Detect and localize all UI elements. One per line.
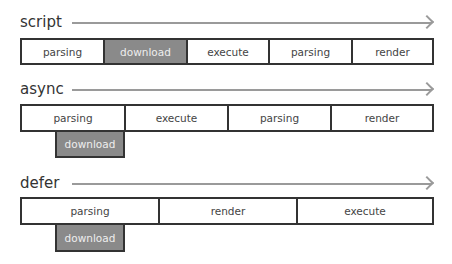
timeline-arrow-line	[72, 89, 432, 91]
segment-parsing: parsing	[227, 104, 332, 132]
segment-download: download	[55, 223, 125, 252]
segment-parsing: parsing	[20, 38, 105, 65]
row-label-async: async	[20, 80, 64, 98]
segment-execute: execute	[296, 197, 434, 225]
segment-parsing: parsing	[20, 197, 160, 225]
row-label-script: script	[20, 13, 62, 31]
arrow-right-icon	[420, 15, 434, 29]
timeline-arrow-line	[72, 183, 432, 185]
segment-parsing: parsing	[268, 38, 353, 65]
segment-parsing: parsing	[20, 104, 126, 132]
segment-execute: execute	[124, 104, 229, 132]
timeline-arrow-line	[72, 22, 432, 24]
row-label-defer: defer	[20, 174, 59, 192]
segment-execute: execute	[186, 38, 270, 65]
segment-render: render	[330, 104, 434, 132]
segment-download: download	[103, 38, 188, 65]
arrow-right-icon	[420, 82, 434, 96]
segment-render: render	[158, 197, 298, 225]
arrow-right-icon	[420, 176, 434, 190]
segment-download: download	[55, 130, 125, 158]
segment-render: render	[351, 38, 434, 65]
